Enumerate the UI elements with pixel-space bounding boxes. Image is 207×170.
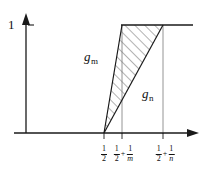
curve-label-g-m-letter: g	[84, 49, 91, 64]
fraction-denominator: 2	[101, 155, 107, 164]
y-axis-label-one: 1	[8, 18, 15, 31]
fraction-denominator: n	[168, 155, 174, 164]
x-tick-label-half-plus-one-over-m: 1 2 + 1 m	[114, 145, 134, 163]
plus-operator: +	[120, 150, 127, 158]
x-tick-label-half-plus-one-over-n: 1 2 + 1 n	[156, 145, 175, 163]
figure-container: 1 gm gn 1 2 1 2 + 1 m 1 2 + 1 n	[0, 0, 207, 170]
fraction-denominator: m	[126, 155, 134, 164]
curve-label-g-n-subscript: n	[149, 93, 154, 103]
fraction-one-over-n: 1 n	[168, 145, 174, 163]
x-axis-arrow-icon	[187, 129, 199, 137]
y-axis-arrow-icon	[22, 13, 30, 25]
fraction-one-half: 1 2	[101, 145, 107, 163]
x-tick-label-half: 1 2	[101, 145, 107, 163]
curve-label-g-n: gn	[142, 87, 154, 103]
curve-label-g-m: gm	[84, 50, 98, 66]
curve-label-g-n-letter: g	[142, 86, 149, 101]
fraction-one-over-m: 1 m	[126, 145, 134, 163]
plus-operator: +	[162, 150, 169, 158]
curve-label-g-m-subscript: m	[91, 56, 99, 66]
